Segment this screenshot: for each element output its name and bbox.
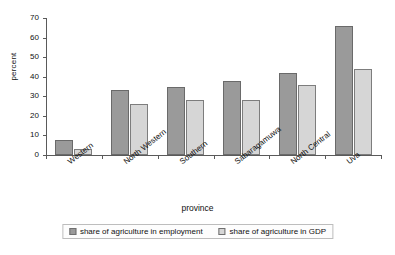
bar [335, 26, 353, 155]
plot-area: 010203040506070 WesternNorth WesternSout… [46, 18, 381, 156]
x-tick-mark [158, 155, 159, 159]
legend-label: share of agriculture in employment [80, 227, 203, 236]
y-tick-label: 60 [30, 34, 39, 42]
y-axis-title: percent [9, 32, 18, 102]
y-tick-label: 70 [30, 14, 39, 22]
y-tick-label: 50 [30, 53, 39, 61]
x-tick-mark [381, 155, 382, 159]
bar [354, 69, 372, 155]
legend-swatch-icon [69, 228, 76, 235]
y-tick-label: 0 [35, 151, 39, 159]
legend-label: share of agriculture in GDP [230, 227, 327, 236]
legend-swatch-icon [219, 228, 226, 235]
chart-legend: share of agriculture in employmentshare … [62, 224, 333, 239]
y-tick-label: 10 [30, 131, 39, 139]
y-tick-label: 40 [30, 73, 39, 81]
x-tick-mark [325, 155, 326, 159]
x-axis-title: province [0, 203, 395, 213]
legend-item: share of agriculture in GDP [219, 227, 327, 236]
x-tick-mark [46, 155, 47, 159]
y-tick-label: 20 [30, 112, 39, 120]
x-tick-mark [102, 155, 103, 159]
x-tick-mark [269, 155, 270, 159]
x-tick-mark [214, 155, 215, 159]
y-tick-label: 30 [30, 92, 39, 100]
legend-item: share of agriculture in employment [69, 227, 203, 236]
bar-chart-figure: percent 010203040506070 WesternNorth Wes… [0, 0, 395, 255]
